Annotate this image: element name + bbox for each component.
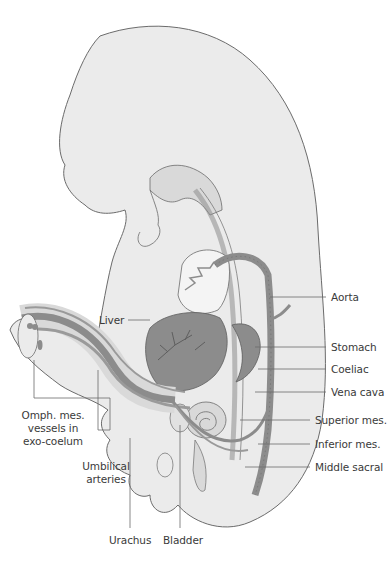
label-vena-cava: Vena cava <box>331 386 384 399</box>
label-coeliac: Coeliac <box>331 363 369 376</box>
label-omph-mes-vessels: Omph. mes. vessels in exo-coelum <box>18 409 88 448</box>
label-stomach: Stomach <box>331 341 377 354</box>
label-omph-mes-line3: exo-coelum <box>18 435 88 448</box>
label-bladder: Bladder <box>163 534 203 547</box>
cord-cut-end <box>18 314 38 358</box>
label-liver: Liver <box>99 314 124 327</box>
label-umbilical-arteries: Umbilical arteries <box>76 460 136 486</box>
label-superior-mes: Superior mes. <box>315 414 387 427</box>
label-urachus: Urachus <box>109 534 151 547</box>
embryo-body <box>10 26 325 527</box>
embryo-vessels-diagram: Aorta Liver Stomach Coeliac Vena cava Su… <box>0 0 391 562</box>
label-omph-mes-line2: vessels in <box>18 422 88 435</box>
label-inferior-mes: Inferior mes. <box>315 438 380 451</box>
label-umbilical-line2: arteries <box>76 473 136 486</box>
label-aorta: Aorta <box>331 291 359 304</box>
label-middle-sacral: Middle sacral <box>315 461 383 474</box>
label-omph-mes-line1: Omph. mes. <box>18 409 88 422</box>
label-umbilical-line1: Umbilical <box>76 460 136 473</box>
embryo-illustration <box>0 0 391 562</box>
